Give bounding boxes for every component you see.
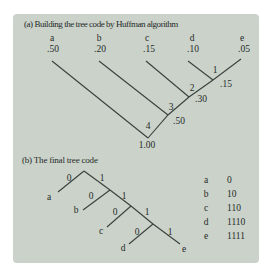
code-table-symbol-a: a (204, 176, 208, 186)
tree-b-edge-n3-c (107, 206, 131, 227)
tree-a-merge-2-step: 2 (190, 84, 195, 94)
code-table-symbol-d: d (204, 218, 209, 228)
tree-a-merge-4-step: 4 (146, 122, 151, 132)
code-table-symbol-b: b (204, 190, 209, 200)
code-table-code-e: 1111 (227, 232, 245, 242)
tree-a-branch-d (188, 61, 213, 80)
tree-b-edge-bit-6: 0 (135, 228, 140, 238)
tree-a-merge-4-prob: 1.00 (139, 141, 156, 151)
tree-b-leaf-e: e (182, 245, 186, 255)
section-b-title: (b) The final tree code (22, 155, 98, 165)
tree-a-leaf-a-symbol: a (50, 34, 54, 44)
tree-b-edge-bit-0: 0 (67, 174, 72, 184)
tree-a-branch-a (52, 61, 148, 138)
tree-b-edge-n4-e (153, 224, 180, 244)
tree-a-merge-1-step: 1 (213, 66, 218, 76)
code-table-code-d: 1110 (227, 218, 245, 228)
tree-b-leaf-a: a (47, 193, 51, 203)
section-a-title: (a) Building the tree code by Huffman al… (24, 19, 178, 29)
tree-a-leaf-b-symbol: b (97, 34, 102, 44)
tree-b-edge-n2-n3 (110, 190, 131, 206)
code-table-code-a: 0 (227, 176, 232, 186)
tree-b-leaf-d: d (121, 244, 126, 254)
tree-a-leaf-e-symbol: e (240, 34, 244, 44)
tree-a-merge-3-prob: .50 (173, 117, 185, 127)
tree-b-edge-bit-2: 0 (89, 192, 94, 202)
tree-b-edge-n3-n4 (131, 206, 153, 224)
tree-b-edge-bit-3: 1 (122, 192, 127, 202)
tree-a-leaf-c-prob: .15 (143, 45, 155, 55)
tree-b-edge-bit-5: 1 (145, 208, 150, 218)
code-table-code-b: 10 (227, 190, 237, 200)
tree-a-merge-1-prob: .15 (220, 80, 232, 90)
tree-a-branch-c (146, 61, 189, 97)
tree-b-edge-root-n2 (84, 171, 110, 190)
tree-b-leaf-c: c (99, 227, 103, 237)
tree-a-leaf-e-prob: .05 (238, 45, 250, 55)
tree-b-leaf-b: b (74, 206, 79, 216)
tree-b-edge-bit-4: 0 (113, 208, 118, 218)
tree-b-edge-n4-d (129, 224, 153, 244)
tree-b-edge-bit-7: 1 (168, 228, 173, 238)
tree-b-edge-n2-b (83, 190, 110, 210)
tree-a-merge-2-prob: .30 (195, 95, 207, 105)
tree-a-merge-3-step: 3 (169, 103, 174, 113)
tree-b-edge-bit-1: 1 (100, 174, 105, 184)
tree-a-leaf-d-prob: .10 (187, 45, 199, 55)
figure-root: (a) Building the tree code by Huffman al… (0, 0, 272, 271)
tree-a-leaf-b-prob: .20 (94, 45, 106, 55)
code-table-symbol-e: e (204, 232, 208, 242)
tree-a-leaf-c-symbol: c (145, 34, 149, 44)
code-table-code-c: 110 (227, 204, 241, 214)
tree-a-leaf-a-prob: .50 (47, 45, 59, 55)
code-table-symbol-c: c (204, 204, 208, 214)
tree-a-leaf-d-symbol: d (190, 34, 195, 44)
